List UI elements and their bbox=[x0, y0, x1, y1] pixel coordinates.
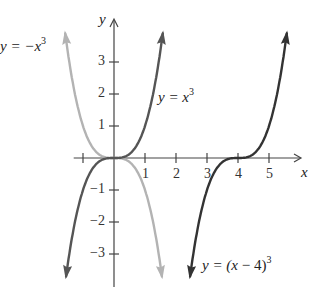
x-tick-label: 2 bbox=[173, 167, 180, 181]
y-tick-label: −3 bbox=[90, 246, 105, 260]
y-axis-label: y bbox=[99, 12, 106, 27]
x-tick-label: 1 bbox=[142, 167, 149, 181]
x-tick-label: 4 bbox=[235, 167, 242, 181]
y-tick-label: −1 bbox=[90, 182, 105, 196]
label-neg-x-cubed: y = −x3 bbox=[0, 39, 46, 54]
label-shifted-cubic: y = (x − 4)3 bbox=[202, 258, 271, 273]
x-axis-label: x bbox=[301, 165, 308, 180]
y-tick-label: 2 bbox=[98, 86, 105, 100]
label-x-cubed: y = x3 bbox=[158, 90, 194, 105]
x-tick-label: 5 bbox=[266, 167, 273, 181]
y-tick-label: −2 bbox=[90, 214, 105, 228]
x-tick-label: 3 bbox=[204, 167, 211, 181]
y-tick-label: 1 bbox=[98, 118, 105, 132]
y-tick-label: 3 bbox=[98, 54, 105, 68]
